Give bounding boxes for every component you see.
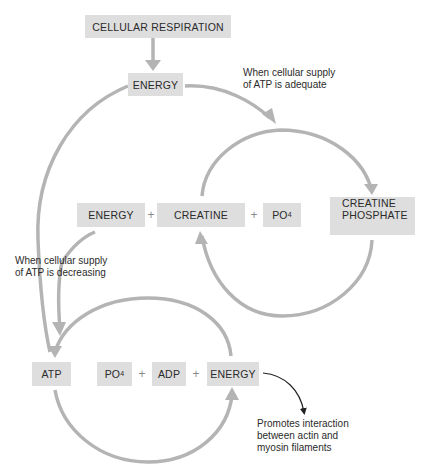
upper-energy-box: ENERGY [77, 203, 145, 227]
note-atp-decreasing: When cellular supply of ATP is decreasin… [15, 255, 107, 279]
arrow-energy-to-upper-cycle [185, 86, 276, 124]
creatine-phosphate-diagram: CELLULAR RESPIRATION ENERGY When cellula… [0, 0, 431, 476]
arrow-energy-to-muscle-contraction [263, 373, 304, 412]
arrow-respiration-to-energy [145, 38, 161, 71]
adp-box: ADP [152, 362, 186, 386]
note-atp-adequate-line1: When cellular supply [243, 67, 335, 79]
creatine-phosphate-line2: PHOSPHATE [342, 209, 408, 221]
plus-sign: + [145, 208, 157, 222]
creatine-phosphate-line1: CREATINE [342, 197, 396, 209]
note-atp-decreasing-line1: When cellular supply [15, 255, 107, 267]
note-promotes-line1: Promotes interaction [257, 418, 349, 430]
lower-energy-box: ENERGY [207, 362, 259, 386]
phosphate-subscript: 4 [288, 209, 292, 221]
plus-sign: + [136, 367, 148, 381]
phosphate-label: PO [272, 209, 288, 221]
note-atp-adequate: When cellular supply of ATP is adequate [243, 67, 335, 91]
plus-sign: + [248, 208, 260, 222]
plus-sign: + [190, 367, 202, 381]
upper-phosphate-box: PO4 [263, 203, 301, 227]
note-atp-adequate-line2: of ATP is adequate [243, 79, 335, 91]
phosphate-subscript: 4 [120, 368, 124, 380]
phosphate-label: PO [105, 368, 121, 380]
creatine-box: CREATINE [157, 203, 245, 227]
note-promotes-line3: myosin filaments [257, 442, 349, 454]
note-promotes-interaction: Promotes interaction between actin and m… [257, 418, 349, 454]
cellular-respiration-box: CELLULAR RESPIRATION [85, 15, 231, 38]
lower-phosphate-box: PO4 [97, 362, 132, 386]
note-promotes-line2: between actin and [257, 430, 349, 442]
arrow-layer [0, 0, 431, 476]
atp-box: ATP [32, 362, 71, 386]
energy-source-box: ENERGY [128, 73, 183, 96]
creatine-phosphate-box: CREATINE PHOSPHATE [330, 197, 415, 235]
note-atp-decreasing-line2: of ATP is decreasing [15, 267, 107, 279]
